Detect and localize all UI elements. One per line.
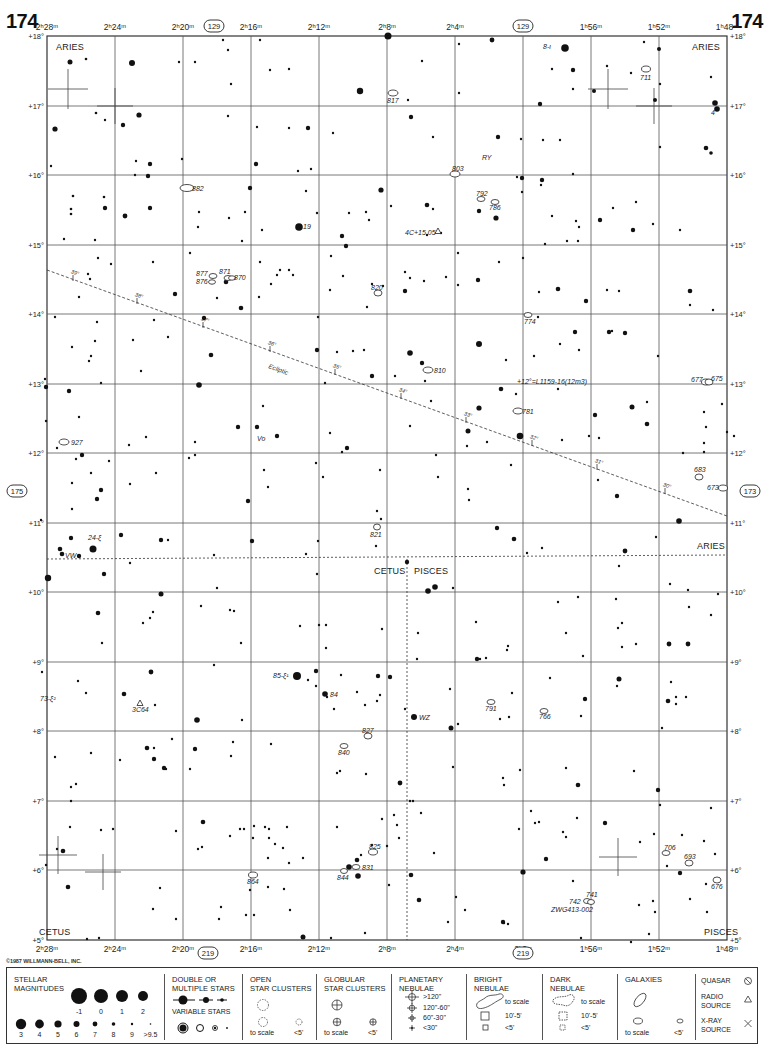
- star: [508, 716, 510, 718]
- star: [705, 426, 707, 428]
- star: [559, 139, 561, 141]
- star: [659, 146, 661, 148]
- dec-label-right: +6°: [730, 866, 742, 875]
- star: [424, 380, 426, 382]
- star: [196, 382, 202, 388]
- ra-label-bottom: 2ʰ8ᵐ: [378, 944, 396, 954]
- svg-text:844: 844: [337, 874, 349, 881]
- adjacent-chart-refs[interactable]: 129129219219175173: [7, 20, 760, 959]
- star: [417, 632, 419, 634]
- ra-label-top: 2ʰ24ᵐ: [104, 22, 126, 32]
- star: [181, 158, 183, 160]
- svg-text:683: 683: [694, 466, 706, 473]
- star: [315, 685, 317, 687]
- star: [561, 439, 563, 441]
- star: [222, 39, 224, 41]
- star: [95, 112, 98, 115]
- star: [385, 33, 392, 40]
- star: [342, 275, 344, 277]
- star: [173, 292, 177, 296]
- adjacent-chart-link[interactable]: 219: [198, 947, 218, 959]
- star: [623, 549, 628, 554]
- star: [390, 205, 392, 207]
- star: [666, 699, 671, 704]
- star: [659, 83, 661, 85]
- galaxy: 766: [539, 709, 551, 721]
- star: [90, 546, 97, 553]
- star: [689, 898, 691, 900]
- star: [584, 299, 588, 303]
- legend-planetary-nebulae: PLANETARYNEBULAE >120" 120"-60" 60"-30" …: [392, 974, 467, 1040]
- star-chart-map[interactable]: 2ʰ28ᵐ2ʰ28ᵐ2ʰ24ᵐ2ʰ24ᵐ2ʰ20ᵐ2ʰ20ᵐ2ʰ16ᵐ2ʰ16ᵐ…: [0, 0, 767, 960]
- star: [630, 405, 635, 410]
- galaxy: 683: [694, 466, 706, 480]
- svg-text:0: 0: [99, 1008, 103, 1015]
- svg-text:8: 8: [112, 1031, 116, 1038]
- constellation-label: PISCES: [704, 927, 738, 937]
- star: [336, 826, 338, 828]
- star: [252, 837, 254, 839]
- star: [218, 918, 220, 920]
- adjacent-chart-link[interactable]: 129: [513, 20, 533, 32]
- star: [348, 212, 350, 214]
- adjacent-chart-link[interactable]: 175: [7, 485, 27, 497]
- radio-sources-layer: 4C+15.053C64: [132, 228, 441, 713]
- star: [288, 68, 290, 70]
- star: [100, 382, 102, 384]
- adjacent-chart-link[interactable]: 129: [204, 20, 224, 32]
- double-variable-star-icons: [165, 974, 243, 1040]
- star: [152, 611, 154, 613]
- star: [317, 316, 319, 318]
- star: [409, 277, 411, 279]
- star: [279, 269, 281, 271]
- star: [85, 58, 88, 61]
- star: [132, 339, 134, 341]
- star: [60, 552, 65, 557]
- star: [275, 434, 279, 438]
- star: [121, 123, 125, 127]
- star: [561, 44, 569, 52]
- star: [496, 135, 500, 139]
- star: [464, 909, 466, 911]
- star: [572, 88, 574, 90]
- svg-text:803: 803: [452, 165, 464, 172]
- star: [71, 482, 73, 484]
- dec-label-left: +6°: [32, 866, 44, 875]
- star: [254, 162, 258, 166]
- star: [299, 625, 301, 627]
- star: [352, 350, 354, 352]
- star: [466, 429, 471, 434]
- star: [476, 341, 482, 347]
- star-label: WZ: [419, 714, 431, 721]
- star: [712, 100, 718, 106]
- adjacent-chart-link[interactable]: 173: [740, 485, 760, 497]
- star: [259, 261, 261, 263]
- adjacent-chart-link[interactable]: 219: [513, 947, 533, 959]
- star: [645, 422, 650, 427]
- star: [227, 115, 229, 117]
- star: [551, 68, 553, 70]
- star: [505, 359, 507, 361]
- star-label: ZWG413-002: [550, 906, 593, 913]
- star: [630, 941, 632, 943]
- svg-text:2: 2: [141, 1008, 145, 1015]
- star: [652, 223, 654, 225]
- star: [90, 355, 92, 357]
- galaxy: 827: [362, 727, 375, 739]
- star: [148, 206, 152, 210]
- star: [71, 508, 73, 510]
- star: [52, 126, 57, 131]
- star: [301, 935, 306, 940]
- star: [54, 756, 56, 758]
- star: [521, 191, 523, 193]
- star: [316, 212, 318, 214]
- star: [148, 162, 152, 166]
- star: [263, 469, 265, 471]
- svg-text:129: 129: [517, 22, 530, 31]
- star: [530, 810, 532, 812]
- star: [617, 627, 619, 629]
- star: [621, 646, 623, 648]
- star: [67, 389, 71, 393]
- star: [425, 203, 430, 208]
- svg-text:129: 129: [208, 22, 221, 31]
